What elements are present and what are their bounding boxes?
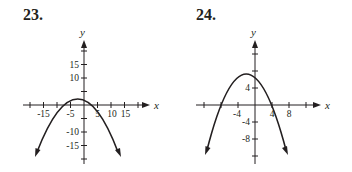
y-axis-label: y xyxy=(250,26,256,38)
y-tick-label: -4 xyxy=(242,117,250,127)
curve-arrow-icon xyxy=(35,148,41,157)
x-tick-label: -5 xyxy=(67,109,75,119)
x-tick-label: 15 xyxy=(121,109,131,119)
x-tick-label: 8 xyxy=(287,109,292,119)
y-tick-label: 4 xyxy=(245,83,250,93)
y-axis-label: y xyxy=(79,26,85,38)
curve-arrow-icon xyxy=(282,146,288,155)
x-axis-label: x xyxy=(324,99,330,111)
problem-23: 23. y x -15 -5 5 10 15 15 10 -10 xyxy=(0,0,176,172)
x-tick-label: -4 xyxy=(233,109,241,119)
x-tick-label: -15 xyxy=(37,109,50,119)
x-axis-arrow-icon xyxy=(142,102,150,108)
y-tick-label: 15 xyxy=(70,60,80,70)
curve-arrow-icon xyxy=(205,146,211,155)
x-axis-arrow-icon xyxy=(313,102,321,108)
x-tick-label: 10 xyxy=(107,109,117,119)
y-tick-label: -8 xyxy=(242,134,250,144)
y-tick-label: -10 xyxy=(66,127,79,137)
curve-arrow-icon xyxy=(115,148,121,157)
graph-24: y x -4 4 8 4 -4 -8 xyxy=(176,0,352,172)
y-tick-label: -15 xyxy=(66,141,79,151)
graph-23: y x -15 -5 5 10 15 15 10 -10 -15 xyxy=(0,0,176,172)
problem-24: 24. y x -4 4 8 4 -4 -8 xyxy=(176,0,352,172)
y-tick-label: 10 xyxy=(70,73,80,83)
x-axis-label: x xyxy=(153,99,159,111)
y-axis-arrow-icon xyxy=(252,40,258,48)
y-axis-arrow-icon xyxy=(81,40,87,48)
